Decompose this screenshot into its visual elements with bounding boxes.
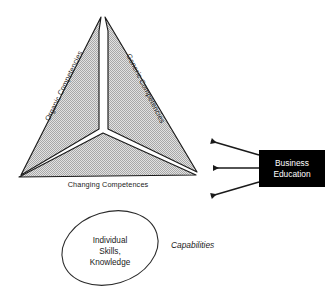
ellipse-line-2: Skills,	[99, 247, 120, 256]
arrow-group	[211, 141, 259, 196]
arrow-upper	[211, 141, 259, 155]
diagram-svg: Organic Competencies Generic Competencie…	[0, 0, 331, 301]
business-education-line-2: Education	[273, 169, 311, 179]
capabilities-label: Capabilities	[171, 240, 215, 250]
competencies-triangle	[19, 17, 197, 177]
ellipse-line-3: Knowledge	[90, 258, 131, 267]
individual-skills-ellipse: Individual Skills, Knowledge	[53, 199, 168, 297]
business-education-box[interactable]: Business Education	[259, 150, 325, 187]
arrow-lower	[211, 182, 259, 196]
business-education-line-1: Business	[275, 158, 309, 168]
triangle-label-changing: Changing Competences	[68, 180, 149, 189]
ellipse-line-1: Individual	[93, 236, 128, 245]
diagram-canvas: Organic Competencies Generic Competencie…	[0, 0, 331, 301]
